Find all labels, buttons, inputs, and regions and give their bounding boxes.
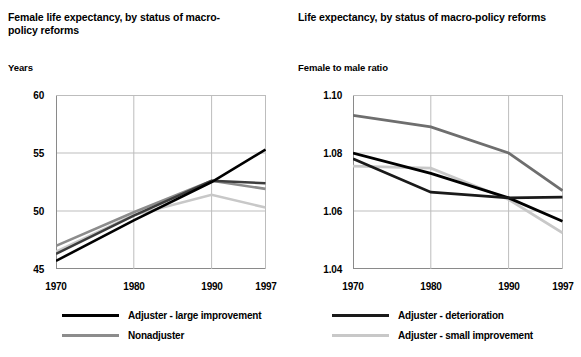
panel-right-chart: Life expectancy, by status of macro-poli…	[291, 0, 581, 357]
right-y-axis-unit-label: Female to male ratio	[298, 62, 388, 73]
right-xtick-1997: 1997	[543, 281, 581, 292]
legend-swatch-adjuster-deterioration	[332, 314, 389, 317]
right-ytick-104: 1.04	[295, 264, 342, 275]
left-xtick-1997: 1997	[246, 281, 286, 292]
left-ytick-45: 45	[8, 264, 44, 275]
left-ytick-60: 60	[8, 90, 44, 101]
right-ytick-106: 1.06	[295, 206, 342, 217]
panel-left-chart: Female life expectancy, by status of mac…	[0, 0, 290, 357]
legend-label-adjuster-large-improvement: Adjuster - large improvement	[128, 310, 261, 321]
right-ytick-108: 1.08	[295, 148, 342, 159]
left-plot-svg	[56, 95, 266, 269]
left-xtick-1990: 1990	[192, 281, 232, 292]
left-plot-area	[56, 95, 266, 269]
left-series-adjuster-deterioration	[56, 181, 266, 254]
legend-label-adjuster-small-improvement: Adjuster - small improvement	[398, 330, 533, 341]
left-y-axis-unit-label: Years	[8, 62, 33, 73]
legend-item-adjuster-large-improvement: Adjuster - large improvement	[62, 308, 261, 323]
left-series-adjuster-large-improvement	[56, 150, 266, 261]
right-series-adjuster-small-improvement	[353, 166, 563, 233]
right-xtick-1990: 1990	[489, 281, 529, 292]
legend-item-adjuster-deterioration: Adjuster - deterioration	[332, 308, 533, 323]
left-legend: Adjuster - large improvement Nonadjuster	[62, 308, 261, 348]
right-ytick-110: 1.10	[295, 90, 342, 101]
right-xtick-1980: 1980	[411, 281, 451, 292]
left-xtick-1980: 1980	[114, 281, 154, 292]
right-xtick-1970: 1970	[333, 281, 373, 292]
legend-swatch-adjuster-large-improvement	[62, 314, 119, 317]
legend-swatch-nonadjuster	[62, 334, 119, 337]
left-ytick-55: 55	[8, 148, 44, 159]
legend-label-adjuster-deterioration: Adjuster - deterioration	[398, 310, 504, 321]
legend-item-nonadjuster: Nonadjuster	[62, 328, 261, 343]
right-legend: Adjuster - deterioration Adjuster - smal…	[332, 308, 533, 348]
legend-swatch-adjuster-small-improvement	[332, 334, 389, 337]
left-ytick-50: 50	[8, 206, 44, 217]
legend-item-adjuster-small-improvement: Adjuster - small improvement	[332, 328, 533, 343]
legend-label-nonadjuster: Nonadjuster	[128, 330, 184, 341]
right-plot-area	[353, 95, 563, 269]
right-plot-svg	[353, 95, 563, 269]
left-chart-title: Female life expectancy, by status of mac…	[8, 11, 238, 37]
left-xtick-1970: 1970	[36, 281, 76, 292]
right-chart-title: Life expectancy, by status of macro-poli…	[298, 11, 578, 24]
